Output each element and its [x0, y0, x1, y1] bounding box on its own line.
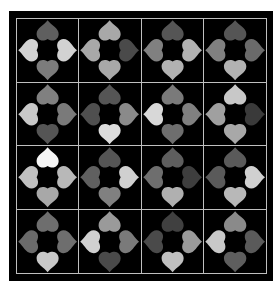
puzzle-tile-r1-c4[interactable]	[204, 19, 266, 83]
heart-top-icon	[99, 84, 121, 104]
heart-right-icon	[119, 230, 139, 253]
heart-right-icon	[245, 39, 265, 62]
heart-right-icon	[57, 166, 77, 189]
heart-left-icon	[205, 39, 225, 62]
heart-bottom-icon	[99, 251, 121, 272]
heart-left-icon	[143, 166, 163, 189]
puzzle-tile-r4-c2[interactable]	[79, 210, 141, 274]
heart-left-icon	[143, 103, 163, 126]
heart-left-icon	[205, 103, 225, 126]
puzzle-tile-r1-c3[interactable]	[142, 19, 204, 83]
puzzle-tile-r2-c2[interactable]	[79, 83, 141, 147]
heart-right-icon	[57, 103, 77, 126]
heart-right-icon	[182, 230, 202, 253]
heart-top-icon	[37, 84, 59, 104]
heart-bottom-icon	[99, 187, 121, 207]
heart-top-icon	[99, 211, 121, 232]
heart-left-icon	[80, 166, 100, 189]
heart-top-icon	[224, 20, 246, 40]
heart-left-icon	[80, 103, 100, 126]
heart-bottom-icon	[99, 123, 121, 143]
heart-bottom-icon	[224, 60, 246, 80]
puzzle-tile-r2-c4[interactable]	[204, 83, 266, 147]
heart-bottom-icon	[161, 60, 183, 80]
heart-bottom-icon	[99, 60, 121, 80]
heart-left-icon	[143, 39, 163, 62]
heart-top-icon	[224, 84, 246, 104]
heart-top-icon	[161, 211, 183, 232]
heart-left-icon	[18, 230, 38, 253]
puzzle-tile-r3-c2[interactable]	[79, 146, 141, 210]
heart-right-icon	[182, 39, 202, 62]
puzzle-tile-r4-c4[interactable]	[204, 210, 266, 274]
heart-left-icon	[205, 230, 225, 253]
heart-bottom-icon	[161, 251, 183, 272]
heart-right-icon	[119, 39, 139, 62]
heart-top-icon	[99, 147, 121, 167]
heart-left-icon	[80, 39, 100, 62]
puzzle-board	[16, 18, 267, 274]
heart-bottom-icon	[161, 123, 183, 143]
heart-top-icon	[99, 20, 121, 40]
heart-bottom-icon	[37, 187, 59, 207]
heart-bottom-icon	[161, 187, 183, 207]
heart-top-icon	[161, 20, 183, 40]
heart-top-icon	[161, 147, 183, 167]
heart-bottom-icon	[37, 123, 59, 143]
heart-left-icon	[18, 166, 38, 189]
heart-right-icon	[57, 39, 77, 62]
heart-right-icon	[245, 166, 265, 189]
puzzle-tile-r4-c3[interactable]	[142, 210, 204, 274]
heart-top-icon	[37, 147, 59, 167]
heart-right-icon	[182, 166, 202, 189]
puzzle-tile-r3-c3[interactable]	[142, 146, 204, 210]
heart-bottom-icon	[224, 123, 246, 143]
heart-bottom-icon	[37, 60, 59, 80]
puzzle-tile-r3-c4[interactable]	[204, 146, 266, 210]
puzzle-tile-r4-c1[interactable]	[17, 210, 79, 274]
heart-right-icon	[119, 103, 139, 126]
puzzle-tile-r1-c2[interactable]	[79, 19, 141, 83]
puzzle-tile-r3-c1[interactable]	[17, 146, 79, 210]
puzzle-tile-r1-c1[interactable]	[17, 19, 79, 83]
heart-right-icon	[245, 230, 265, 253]
heart-top-icon	[224, 211, 246, 232]
heart-left-icon	[18, 103, 38, 126]
heart-left-icon	[18, 39, 38, 62]
puzzle-tile-r2-c1[interactable]	[17, 83, 79, 147]
heart-left-icon	[205, 166, 225, 189]
heart-bottom-icon	[224, 251, 246, 272]
heart-top-icon	[37, 211, 59, 232]
heart-left-icon	[143, 230, 163, 253]
heart-bottom-icon	[37, 251, 59, 272]
heart-bottom-icon	[224, 187, 246, 207]
heart-top-icon	[224, 147, 246, 167]
heart-top-icon	[37, 20, 59, 40]
heart-right-icon	[119, 166, 139, 189]
heart-left-icon	[80, 230, 100, 253]
heart-top-icon	[161, 84, 183, 104]
heart-right-icon	[57, 230, 77, 253]
heart-right-icon	[182, 103, 202, 126]
heart-right-icon	[245, 103, 265, 126]
puzzle-tile-r2-c3[interactable]	[142, 83, 204, 147]
